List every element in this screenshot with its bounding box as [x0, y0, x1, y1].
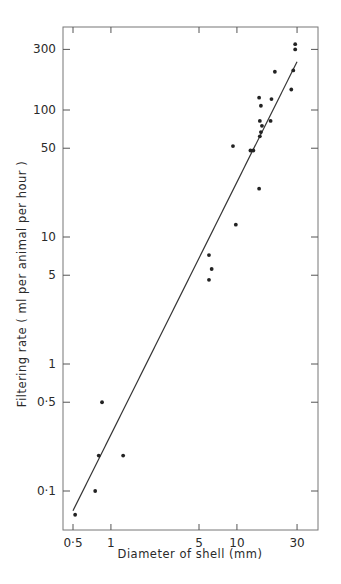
data-point: [121, 454, 125, 458]
x-tick-label: 0·5: [63, 536, 82, 550]
y-tick-label: 5: [48, 268, 56, 282]
data-point: [93, 489, 97, 493]
y-tick-label: 50: [41, 141, 56, 155]
data-point: [73, 513, 77, 517]
data-point: [234, 223, 238, 227]
data-point: [270, 97, 274, 101]
data-point: [293, 48, 297, 52]
data-point: [100, 400, 104, 404]
data-point: [289, 88, 293, 92]
y-axis-label: Filtering rate ( ml per animal per hour …: [15, 161, 29, 407]
y-axis-ticks: 0·10·5151050100300: [33, 42, 318, 498]
x-tick-label: 30: [289, 536, 304, 550]
data-point: [260, 124, 264, 128]
data-point: [259, 104, 263, 108]
data-point: [251, 149, 255, 153]
data-point: [259, 130, 263, 134]
data-point: [291, 69, 295, 73]
data-point: [293, 42, 297, 46]
data-points: [73, 42, 297, 516]
data-point: [207, 278, 211, 282]
y-tick-label: 300: [33, 42, 56, 56]
data-point: [207, 253, 211, 257]
x-axis-label: Diameter of shell (mm): [118, 547, 263, 561]
data-point: [273, 70, 277, 74]
scatter-chart: 0·5151030 0·10·5151050100300 Diameter of…: [0, 0, 341, 584]
fitted-line: [73, 62, 297, 511]
data-point: [269, 119, 273, 123]
data-point: [257, 187, 261, 191]
data-point: [231, 144, 235, 148]
data-point: [257, 96, 261, 100]
y-tick-label: 100: [33, 103, 56, 117]
y-tick-label: 0·5: [37, 395, 56, 409]
data-point: [210, 267, 214, 271]
data-point: [97, 454, 101, 458]
y-tick-label: 0·1: [37, 484, 56, 498]
data-point: [258, 119, 262, 123]
y-tick-label: 1: [48, 357, 56, 371]
x-tick-label: 1: [107, 536, 115, 550]
y-tick-label: 10: [41, 230, 56, 244]
data-point: [258, 134, 262, 138]
